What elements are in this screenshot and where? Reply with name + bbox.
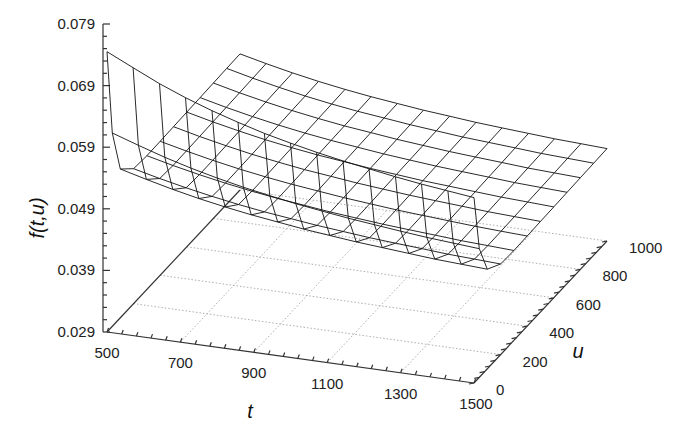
mesh-line-u: [200, 98, 567, 193]
mesh-line-u: [174, 127, 541, 222]
mesh-line-u: [227, 68, 594, 163]
t-tick-label: 500: [94, 344, 119, 361]
mesh-line-t: [343, 122, 476, 241]
surface-mesh: [107, 52, 607, 270]
mesh-line-t: [422, 139, 555, 259]
mesh-line-u: [147, 156, 514, 251]
mesh-line-u: [134, 169, 501, 264]
u-tick-label: 600: [576, 296, 601, 313]
u-tick-label: 400: [549, 324, 574, 341]
mesh-line-u: [112, 133, 479, 249]
surface-chart: 0.0290.0390.0490.0590.0690.0795007009001…: [0, 0, 696, 436]
mesh-line-t: [107, 52, 240, 169]
mesh-line-u: [187, 112, 554, 207]
u-tick-label: 800: [602, 267, 627, 284]
mesh-line-t: [396, 133, 529, 253]
u-tick-label: 1000: [629, 239, 662, 256]
t-tick-label: 1500: [459, 395, 492, 412]
z-tick-label: 0.069: [57, 77, 95, 94]
u-tick-label: 200: [523, 353, 548, 370]
mesh-line-u: [213, 83, 580, 178]
axes: [103, 24, 607, 384]
t-tick-label: 900: [241, 364, 266, 381]
t-tick-label: 700: [168, 354, 193, 371]
z-tick-label: 0.059: [57, 138, 95, 155]
t-axis-title: t: [247, 400, 254, 422]
z-tick-label: 0.079: [57, 15, 95, 32]
z-axis-title: f(t,u): [26, 197, 48, 238]
z-tick-label: 0.029: [57, 323, 95, 340]
z-tick-label: 0.049: [57, 200, 95, 217]
mesh-line-t: [264, 104, 397, 223]
mesh-line-t: [474, 149, 607, 270]
mesh-line-t: [212, 89, 345, 207]
z-tick-label: 0.039: [57, 261, 95, 278]
u-tick-label: 0: [496, 381, 504, 398]
t-tick-label: 1300: [384, 385, 417, 402]
u-axis-title: u: [572, 340, 583, 362]
t-tick-label: 1100: [311, 375, 343, 392]
mesh-line-t: [133, 64, 266, 180]
mesh-line-u: [240, 54, 607, 149]
